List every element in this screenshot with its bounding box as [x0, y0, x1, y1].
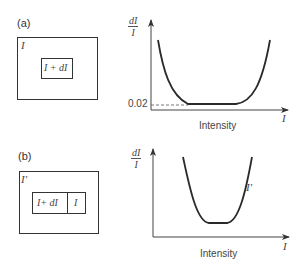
panel-a-curve — [158, 40, 270, 104]
panel-a-axes — [151, 20, 288, 110]
graphs-canvas — [0, 0, 301, 268]
panel-b-curve — [183, 157, 252, 223]
